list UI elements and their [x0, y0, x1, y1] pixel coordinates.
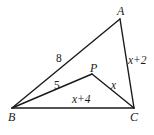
vertex-label-c: C	[130, 110, 139, 124]
triangle-diagram: A B C P 8 x+2 x+4 5 x	[0, 0, 154, 135]
vertex-label-b: B	[8, 110, 16, 124]
edge-label-pc: x	[110, 79, 117, 91]
edge-label-ab: 8	[56, 52, 62, 64]
edge-label-bp: 5	[54, 79, 60, 91]
edge-label-ac: x+2	[127, 54, 147, 66]
edge-label-bc: x+4	[71, 93, 91, 105]
edge-ab	[12, 19, 120, 108]
vertex-label-a: A	[116, 4, 125, 18]
vertex-label-p: P	[89, 61, 98, 75]
